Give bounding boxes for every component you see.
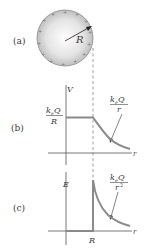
charged-sphere-figure: (a) + + + + + + + + + + + + + + R (b) V … bbox=[0, 0, 148, 250]
svg-text:+: + bbox=[73, 58, 77, 64]
svg-text:+: + bbox=[87, 41, 91, 47]
svg-text:+: + bbox=[84, 18, 88, 24]
svg-text:+: + bbox=[75, 11, 79, 17]
inside-potential-label: k e Q R bbox=[46, 106, 63, 126]
svg-text:+: + bbox=[37, 40, 41, 46]
svg-text:+: + bbox=[41, 51, 45, 57]
panel-b: (b) V r k e Q R k e Q r bbox=[11, 85, 137, 165]
potential-curve bbox=[66, 118, 130, 150]
outside-field-label: k e Q r 2 bbox=[110, 173, 128, 192]
panel-a-label: (a) bbox=[13, 36, 25, 46]
r-axis-label-b: r bbox=[133, 150, 137, 158]
svg-text:2: 2 bbox=[120, 182, 123, 188]
svg-text:Q: Q bbox=[118, 173, 125, 182]
radius-label: R bbox=[75, 34, 84, 45]
v-axis-label: V bbox=[67, 85, 74, 94]
panel-a: (a) + + + + + + + + + + + + + + R bbox=[13, 9, 93, 67]
svg-text:+: + bbox=[38, 28, 42, 34]
r-tick-label: R bbox=[88, 236, 95, 245]
svg-text:Q: Q bbox=[54, 106, 61, 115]
panel-b-label: (b) bbox=[11, 123, 24, 133]
svg-text:+: + bbox=[51, 11, 55, 17]
panel-c-label: (c) bbox=[13, 203, 25, 213]
svg-text:R: R bbox=[50, 117, 57, 126]
outside-potential-label: k e Q r bbox=[110, 95, 128, 114]
svg-text:Q: Q bbox=[118, 95, 125, 104]
svg-text:+: + bbox=[82, 51, 86, 57]
svg-text:+: + bbox=[63, 9, 67, 15]
svg-text:+: + bbox=[49, 58, 53, 64]
pointer-line-c bbox=[111, 192, 118, 217]
svg-text:+: + bbox=[42, 17, 46, 23]
panel-c: (c) E r R k e Q r 2 bbox=[13, 172, 137, 245]
svg-text:r: r bbox=[117, 105, 122, 114]
e-axis-label: E bbox=[62, 180, 69, 189]
pointer-line-b bbox=[111, 114, 122, 140]
svg-text:+: + bbox=[61, 61, 65, 67]
r-axis-label-c: r bbox=[133, 228, 137, 236]
